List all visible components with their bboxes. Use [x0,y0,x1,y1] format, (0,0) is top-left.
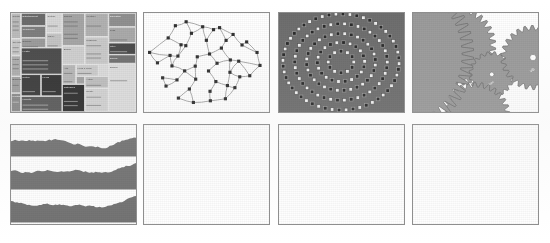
graph-node [205,39,208,42]
treemap-cell-label: Culture [48,15,57,18]
radial-node [320,15,324,19]
graph-node [170,64,173,67]
radial-node [355,85,359,89]
radial-node [358,106,362,110]
radial-node [310,30,314,34]
radial-node [383,72,387,76]
graph-node [196,55,199,58]
radial-node [390,84,394,88]
treemap-sub-line [23,105,49,106]
radial-node [301,39,305,43]
treemap-sub-line [86,26,101,27]
radial-node [377,82,381,86]
radial-node [362,16,366,20]
radial-node [298,44,302,48]
panel-indented-tree[interactable] [143,124,270,225]
radial-node [316,93,320,97]
radial-node [356,96,360,100]
graph-node [240,43,243,46]
graph-node [177,97,180,100]
panel-treemap[interactable]: SportsTop StoriesWorldBusinessPoliticsEn… [10,12,137,113]
graph-node [176,54,179,57]
panel-horizon-area-charts[interactable] [10,124,137,225]
graph-node [156,61,159,64]
radial-node [368,90,372,94]
radial-node [393,79,397,83]
radial-node [362,65,366,69]
treemap-sub-line [13,30,19,31]
panel-dense-network[interactable] [412,124,539,225]
radial-node [378,39,382,43]
graph-node [208,52,211,55]
treemap-sub-line [13,26,19,27]
treemap-sub-line [64,105,78,106]
radial-node [397,62,401,66]
radial-node [386,89,390,93]
radial-node [316,55,320,59]
graph-node [233,86,236,89]
radial-node [328,55,332,59]
radial-node [397,56,401,60]
radial-node [354,45,358,49]
radial-node [295,71,299,75]
radial-node [295,49,299,53]
treemap-sub-line [23,68,49,69]
radial-node [282,53,286,57]
radial-node [381,77,385,81]
treemap-sub-line [64,101,78,102]
radial-node [381,93,385,97]
radial-node [352,60,356,64]
radial-node [317,66,321,70]
graph-node [148,51,151,54]
treemap-sub-line [23,60,49,61]
panel-edge-bundling[interactable] [278,124,405,225]
treemap-sub-line [64,93,78,94]
radial-node [343,98,347,102]
radial-node [336,98,340,102]
radial-node [322,25,326,29]
treemap-cell-label: Autos [86,78,93,81]
radial-node [320,71,324,75]
graph-node [215,62,218,65]
radial-node [351,107,355,111]
radial-node [298,77,302,81]
radial-node [384,30,388,34]
radial-node [373,63,377,67]
radial-node [305,57,309,61]
radial-node [302,23,306,27]
radial-node [336,32,340,36]
radial-node [355,14,359,18]
radial-node [368,18,372,22]
radial-node [348,13,352,16]
radial-node [294,54,298,58]
radial-node [297,27,301,31]
treemap-sub-line [13,21,19,22]
radial-node [316,61,320,65]
graph-node [179,43,182,46]
treemap-cell-label: Sports [13,15,21,18]
radial-node [348,42,352,46]
treemap-sub-line [13,51,19,52]
radial-node [374,22,378,26]
radial-node [343,80,347,84]
gear-hub [530,54,536,60]
panel-radial-rings[interactable] [278,12,405,113]
radial-rings-canvas [279,13,404,112]
radial-node [349,88,353,92]
treemap-cell-label: Jobs [110,29,116,32]
treemap-sub-line [23,91,35,92]
treemap-sub-line [86,45,101,46]
radial-node [319,50,323,54]
graph-node [258,64,261,67]
radial-node [373,34,377,38]
radial-node [335,41,339,45]
radial-node [349,98,353,102]
panel-gears[interactable]: prefuseflarevis [412,12,539,113]
graph-node [224,97,227,100]
panel-mesh-graph[interactable] [143,12,270,113]
radial-node [317,105,321,109]
graph-node [229,58,232,61]
radial-node [336,22,340,26]
treemap-cell-label: Technology [23,28,36,31]
treemap-cell-label: Realty [86,90,94,93]
